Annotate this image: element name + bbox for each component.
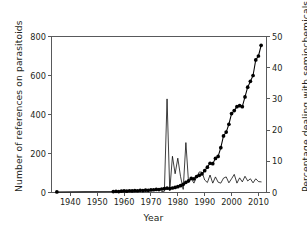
x-tick-label: 2000 xyxy=(221,197,242,207)
data-point-marker xyxy=(206,165,210,169)
data-point-marker xyxy=(243,95,247,99)
y2-tick-label: 10 xyxy=(272,156,282,166)
data-point-marker xyxy=(240,105,244,109)
data-point-marker xyxy=(200,172,204,176)
y-axis-left-ticks: 0200400600800 xyxy=(30,32,51,198)
y2-tick-label: 50 xyxy=(272,32,282,42)
y-axis-left-title: Number of references on parasitoids xyxy=(13,20,24,192)
series-line-percentage xyxy=(162,99,261,192)
data-point-marker xyxy=(230,112,234,116)
data-point-marker xyxy=(259,43,263,47)
x-axis-ticks: 19401950196019701980199020002010 xyxy=(60,193,269,208)
y2-tick-label: 30 xyxy=(272,94,282,104)
series-line-references xyxy=(57,45,261,192)
data-point-marker xyxy=(224,130,228,134)
data-point-marker xyxy=(222,134,226,138)
x-tick-label: 1990 xyxy=(194,197,215,207)
y-axis-right-title: Percentage dealing with semiochemicals xyxy=(300,1,307,192)
y-tick-label: 600 xyxy=(30,71,46,81)
data-point-marker xyxy=(227,122,231,126)
chart-plot-area: 0200400600800 01020304050 19401950196019… xyxy=(0,0,307,232)
x-tick-label: 1980 xyxy=(167,197,188,207)
data-point-marker xyxy=(216,155,220,159)
axes-frame-path xyxy=(52,37,267,193)
figure-container: 0200400600800 01020304050 19401950196019… xyxy=(0,0,307,232)
y-tick-label: 400 xyxy=(30,110,46,120)
data-point-marker xyxy=(246,85,250,89)
y2-tick-label: 0 xyxy=(272,188,277,198)
y-tick-label: 800 xyxy=(30,32,46,42)
y-tick-label: 0 xyxy=(41,188,46,198)
data-point-marker xyxy=(203,169,207,173)
data-point-marker xyxy=(249,80,253,84)
data-point-marker xyxy=(254,58,258,62)
x-tick-label: 1950 xyxy=(87,197,108,207)
axes-frame xyxy=(52,37,267,193)
y2-tick-label: 40 xyxy=(272,63,282,73)
x-tick-label: 1940 xyxy=(60,197,81,207)
series-markers-references xyxy=(55,43,263,193)
data-point-marker xyxy=(219,146,223,150)
data-point-marker xyxy=(232,109,236,113)
data-point-marker xyxy=(257,54,261,58)
data-point-marker xyxy=(55,190,59,194)
x-tick-label: 2010 xyxy=(248,197,269,207)
data-point-marker xyxy=(211,162,215,166)
data-point-marker xyxy=(251,74,255,78)
x-tick-label: 1970 xyxy=(141,197,162,207)
x-axis-title: Year xyxy=(0,212,307,223)
x-tick-label: 1960 xyxy=(114,197,135,207)
y-axis-right-ticks: 01020304050 xyxy=(267,32,283,198)
y-tick-label: 200 xyxy=(30,149,46,159)
data-series-group xyxy=(55,43,263,193)
y2-tick-label: 20 xyxy=(272,125,282,135)
